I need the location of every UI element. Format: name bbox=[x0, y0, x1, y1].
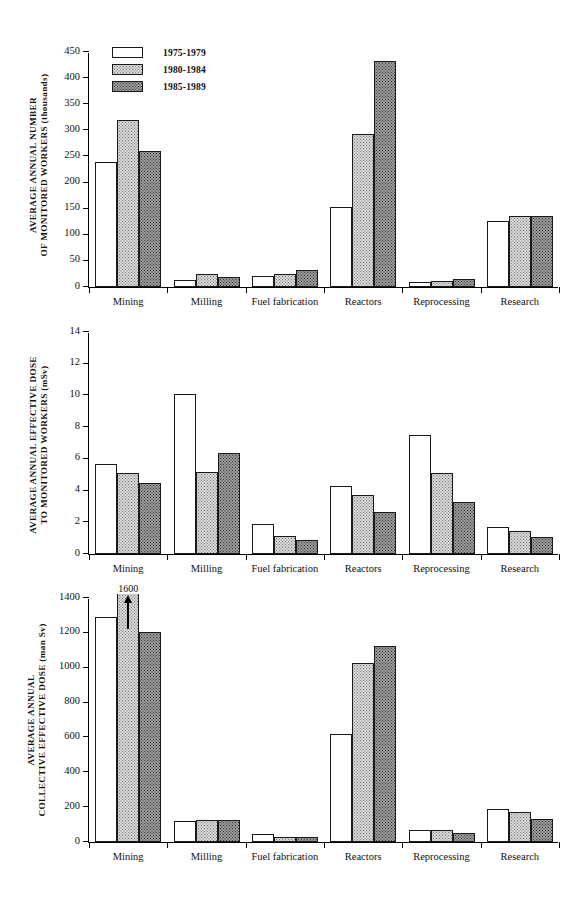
x-axis-tick bbox=[167, 554, 168, 560]
y-axis-tick-label: 0 bbox=[75, 547, 80, 558]
bar bbox=[218, 453, 240, 554]
x-axis-category-label: Reactors bbox=[345, 563, 382, 574]
y-axis-tick-label: 400 bbox=[64, 71, 80, 82]
bar bbox=[274, 274, 296, 287]
x-axis-tick bbox=[324, 287, 325, 293]
bar bbox=[274, 536, 296, 554]
y-axis-tick: 250 bbox=[83, 155, 89, 156]
bar bbox=[95, 464, 117, 554]
bar bbox=[409, 830, 431, 842]
bar bbox=[509, 812, 531, 842]
x-axis-category-label: Reprocessing bbox=[413, 851, 470, 862]
y-axis-tick-label: 350 bbox=[64, 97, 80, 108]
bar bbox=[487, 221, 509, 287]
chart2-y-axis-title: AVERAGE ANNUAL EFFECTIVE DOSE TO MONITOR… bbox=[28, 325, 50, 565]
chart3-plot-area: 02004006008001000120014001600MiningMilli… bbox=[88, 599, 558, 843]
legend-swatch-white bbox=[112, 47, 143, 58]
bar bbox=[139, 151, 161, 287]
chart1-y-axis-title-line1: AVERAGE ANNUAL NUMBER bbox=[28, 97, 38, 233]
bar bbox=[95, 617, 117, 842]
chart1-y-axis-title-line2: OF MONITORED WORKERS (thousands) bbox=[39, 40, 50, 290]
bar bbox=[218, 820, 240, 842]
y-axis-tick-label: 100 bbox=[64, 227, 80, 238]
bar bbox=[352, 663, 374, 842]
y-axis-tick-label: 450 bbox=[64, 45, 80, 56]
bar bbox=[174, 821, 196, 842]
bar bbox=[174, 280, 196, 287]
y-axis-tick: 600 bbox=[83, 736, 89, 737]
bar bbox=[274, 837, 296, 842]
bar bbox=[296, 270, 318, 287]
x-axis-tick bbox=[167, 287, 168, 293]
y-axis-tick: 4 bbox=[83, 490, 89, 491]
bar bbox=[196, 274, 218, 287]
bar bbox=[453, 279, 475, 287]
bar bbox=[196, 472, 218, 554]
x-axis-tick bbox=[559, 842, 560, 848]
y-axis-tick: 450 bbox=[83, 51, 89, 52]
y-axis-tick: 150 bbox=[83, 208, 89, 209]
chart3-y-axis-title-line2: COLLECTIVE EFFECTIVE DOSE (man Sv) bbox=[37, 595, 48, 845]
bar bbox=[531, 537, 553, 554]
y-axis-tick-label: 250 bbox=[64, 149, 80, 160]
y-axis-tick: 300 bbox=[83, 129, 89, 130]
y-axis-tick: 800 bbox=[83, 702, 89, 703]
y-axis-tick-label: 1000 bbox=[59, 660, 80, 671]
bar bbox=[117, 473, 139, 554]
bar bbox=[409, 282, 431, 287]
bar bbox=[218, 277, 240, 287]
y-axis-tick: 14 bbox=[83, 331, 89, 332]
legend-item: 1985-1989 bbox=[112, 78, 206, 95]
chart1-legend: 1975-19791980-19841985-1989 bbox=[112, 44, 206, 95]
x-axis-tick bbox=[324, 554, 325, 560]
x-axis-category-label: Milling bbox=[191, 563, 223, 574]
bar bbox=[352, 495, 374, 554]
legend-label: 1980-1984 bbox=[163, 65, 206, 75]
bar bbox=[352, 134, 374, 287]
y-axis-tick-label: 800 bbox=[64, 695, 80, 706]
y-axis-tick: 200 bbox=[83, 806, 89, 807]
x-axis-category-label: Fuel fabrication bbox=[251, 296, 318, 307]
bar bbox=[330, 734, 352, 842]
bar bbox=[531, 819, 553, 842]
legend-item: 1980-1984 bbox=[112, 61, 206, 78]
y-axis-tick: 50 bbox=[83, 260, 89, 261]
bar bbox=[374, 512, 396, 554]
x-axis-tick bbox=[246, 842, 247, 848]
x-axis-tick bbox=[324, 842, 325, 848]
y-axis-tick-label: 12 bbox=[70, 356, 81, 367]
y-axis-tick-label: 0 bbox=[75, 835, 80, 846]
y-axis-tick-label: 1200 bbox=[59, 625, 80, 636]
x-axis-category-label: Reactors bbox=[345, 296, 382, 307]
bar bbox=[431, 473, 453, 554]
y-axis-tick-label: 4 bbox=[75, 483, 80, 494]
x-axis-tick bbox=[246, 287, 247, 293]
x-axis-tick bbox=[559, 554, 560, 560]
chart2-y-axis-title-line2: TO MONITORED WORKERS (mSv) bbox=[39, 325, 50, 565]
bar bbox=[296, 837, 318, 842]
x-axis-tick bbox=[89, 287, 90, 293]
legend-item: 1975-1979 bbox=[112, 44, 206, 61]
x-axis-category-label: Milling bbox=[191, 296, 223, 307]
x-axis-tick bbox=[481, 842, 482, 848]
clipped-value-annotation: 1600 bbox=[118, 583, 138, 594]
x-axis-category-label: Mining bbox=[113, 296, 144, 307]
chart1-y-axis-title: AVERAGE ANNUAL NUMBER OF MONITORED WORKE… bbox=[28, 40, 50, 290]
legend-label: 1975-1979 bbox=[163, 48, 206, 58]
y-axis-tick-label: 50 bbox=[70, 253, 81, 264]
bar bbox=[409, 435, 431, 554]
x-axis-tick bbox=[246, 554, 247, 560]
y-axis-tick: 6 bbox=[83, 458, 89, 459]
x-axis-tick bbox=[167, 842, 168, 848]
x-axis-tick bbox=[402, 842, 403, 848]
chart-panel-1: AVERAGE ANNUAL NUMBER OF MONITORED WORKE… bbox=[0, 0, 578, 315]
x-axis-category-label: Milling bbox=[191, 851, 223, 862]
bar bbox=[139, 632, 161, 842]
x-axis-tick bbox=[481, 554, 482, 560]
bar bbox=[174, 394, 196, 554]
bar bbox=[252, 276, 274, 287]
y-axis-tick: 1200 bbox=[83, 632, 89, 633]
bar bbox=[509, 216, 531, 287]
y-axis-tick-label: 400 bbox=[64, 765, 80, 776]
legend-swatch-dark bbox=[112, 81, 143, 92]
